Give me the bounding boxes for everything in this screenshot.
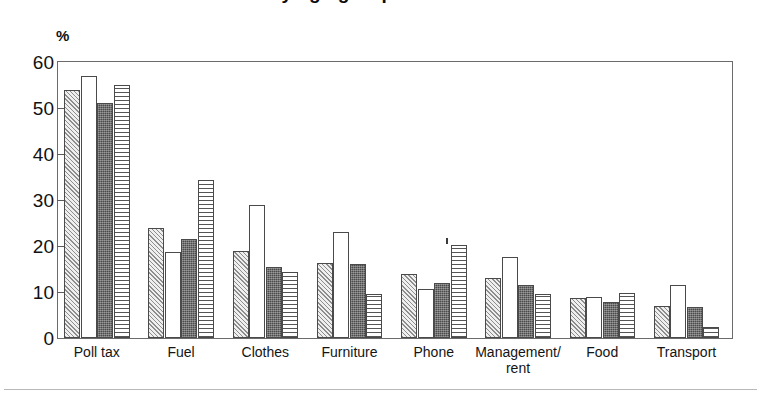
bar-3-management-rent [518,285,534,338]
y-tick-label-60: 60 [12,53,54,72]
bar-2-fuel [165,252,181,338]
bar-1-management-rent [485,278,501,338]
y-tick-label-40: 40 [12,145,54,164]
y-tick-mark-20 [57,246,64,247]
bar-2-food [586,297,602,338]
y-axis-unit-label: % [56,28,69,43]
bar-4-clothes [282,272,298,338]
y-tick-mark-30 [57,200,64,201]
bar-4-management-rent [535,294,551,338]
footer-rule [4,389,757,390]
bar-4-transport [703,327,719,339]
y-tick-label-30: 30 [12,191,54,210]
bar-3-fuel [181,239,197,338]
bar-4-fuel [198,180,214,338]
y-tick-label-50: 50 [12,99,54,118]
bar-1-clothes [233,251,249,338]
bar-4-furniture [366,294,382,338]
category-label-7: Transport [632,344,742,360]
y-tick-mark-40 [57,154,64,155]
bar-1-phone [401,274,417,338]
bar-3-food [603,302,619,338]
y-tick-label-10: 10 [12,283,54,302]
stray-mark [446,238,448,244]
bar-4-food [619,293,635,338]
bar-3-poll-tax [97,103,113,338]
bar-1-fuel [148,228,164,338]
y-tick-mark-50 [57,108,64,109]
bar-2-poll-tax [81,76,97,338]
bar-3-phone [434,283,450,338]
bar-2-phone [418,289,434,338]
bar-1-food [570,298,586,338]
bar-chart: % 0102030405060 Poll taxFuelClothesFurni… [0,0,761,412]
category-axis-labels: Poll taxFuelClothesFurniturePhoneManagem… [0,344,761,394]
bar-3-furniture [350,264,366,338]
bar-4-poll-tax [114,85,130,338]
bar-2-transport [670,285,686,338]
bar-2-clothes [249,205,265,338]
bar-3-transport [687,307,703,338]
bar-2-management-rent [502,257,518,338]
y-tick-mark-10 [57,292,64,293]
bar-2-furniture [333,232,349,338]
bar-1-transport [654,306,670,338]
bar-4-phone [451,245,467,338]
bar-1-poll-tax [64,90,80,338]
bar-3-clothes [266,267,282,338]
bars-layer [58,62,732,338]
bar-1-furniture [317,263,333,338]
y-tick-label-20: 20 [12,237,54,256]
